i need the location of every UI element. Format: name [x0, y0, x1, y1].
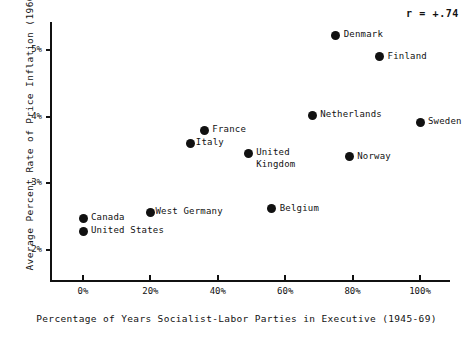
data-point-label: Netherlands — [320, 109, 382, 121]
data-point-label: Denmark — [344, 29, 383, 41]
x-tick-mark — [217, 275, 219, 281]
y-tick-mark — [46, 182, 52, 184]
scatter-plot-figure: 2%3%4%5% 0%20%40%60%80%100% Average Perc… — [0, 0, 473, 338]
data-point — [416, 118, 425, 127]
x-tick-mark — [352, 275, 354, 281]
data-point-label: United States — [91, 225, 164, 237]
x-tick-label: 80% — [333, 286, 373, 296]
x-tick-label: 60% — [265, 286, 305, 296]
x-tick-label: 40% — [198, 286, 238, 296]
x-tick-mark — [419, 275, 421, 281]
data-point-label: Norway — [357, 151, 391, 163]
data-point-label: West Germany — [155, 206, 222, 218]
data-point-label: Finland — [388, 51, 427, 63]
x-axis-line — [50, 280, 450, 282]
y-tick-mark — [46, 116, 52, 118]
x-tick-label: 0% — [63, 286, 103, 296]
data-point-label: Belgium — [280, 203, 319, 215]
y-axis-title: Average Percent Rate of Price Inflation … — [24, 21, 35, 271]
y-axis-line — [50, 22, 52, 282]
y-tick-mark — [46, 49, 52, 51]
x-tick-label: 20% — [130, 286, 170, 296]
x-tick-mark — [82, 275, 84, 281]
x-tick-label: 100% — [400, 286, 440, 296]
data-point — [79, 227, 88, 236]
y-tick-mark — [46, 249, 52, 251]
data-point — [308, 111, 317, 120]
data-point — [244, 149, 253, 158]
data-point — [200, 126, 209, 135]
plot-area: 2%3%4%5% 0%20%40%60%80%100% Average Perc… — [0, 0, 473, 338]
data-point — [79, 214, 88, 223]
data-point-label: France — [212, 124, 246, 136]
data-point — [186, 139, 195, 148]
data-point — [375, 52, 384, 61]
data-point — [331, 31, 340, 40]
x-tick-mark — [284, 275, 286, 281]
data-point — [267, 204, 276, 213]
x-tick-mark — [149, 275, 151, 281]
correlation-annotation: r = +.74 — [406, 8, 459, 19]
x-axis-title: Percentage of Years Socialist-Labor Part… — [0, 313, 473, 324]
data-point-label: Italy — [196, 137, 224, 149]
data-point — [146, 208, 155, 217]
data-point-label: Sweden — [428, 116, 462, 128]
data-point — [345, 152, 354, 161]
data-point-label: United Kingdom — [256, 147, 295, 170]
data-point-label: Canada — [91, 212, 125, 224]
